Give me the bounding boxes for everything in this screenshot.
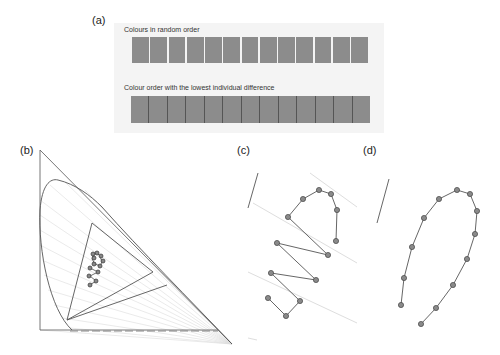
colour-point xyxy=(316,187,321,192)
colour-point xyxy=(401,275,406,280)
colour-point xyxy=(433,305,438,310)
colour-point xyxy=(450,282,455,287)
colour-point xyxy=(454,187,459,192)
colour-point xyxy=(398,302,403,307)
colour-points xyxy=(398,187,479,326)
colour-point xyxy=(328,191,333,196)
colour-point xyxy=(421,215,426,220)
colour-point xyxy=(265,295,270,300)
colour-point xyxy=(285,214,290,219)
colour-point xyxy=(274,240,279,245)
colour-point xyxy=(313,277,318,282)
colour-point xyxy=(334,207,339,212)
colour-point xyxy=(283,313,288,318)
colour-points xyxy=(265,187,339,318)
axis-segment xyxy=(377,179,389,223)
colour-point xyxy=(418,321,423,326)
colour-point xyxy=(464,256,469,261)
axis-segment xyxy=(248,173,258,208)
random-order-path-plot xyxy=(248,173,357,340)
colour-point xyxy=(268,270,273,275)
colour-points-cluster xyxy=(87,251,105,287)
optimal-order-path-plot xyxy=(377,179,480,327)
colour-point xyxy=(300,196,305,201)
colour-point xyxy=(297,298,302,303)
colour-point xyxy=(333,238,338,243)
colour-point xyxy=(474,208,479,213)
colour-point xyxy=(436,196,441,201)
diagram-canvas xyxy=(0,0,500,355)
colour-point xyxy=(467,191,472,196)
colour-point xyxy=(325,252,330,257)
colour-point xyxy=(472,231,477,236)
chromaticity-diagram xyxy=(40,150,232,344)
colour-point xyxy=(409,244,414,249)
